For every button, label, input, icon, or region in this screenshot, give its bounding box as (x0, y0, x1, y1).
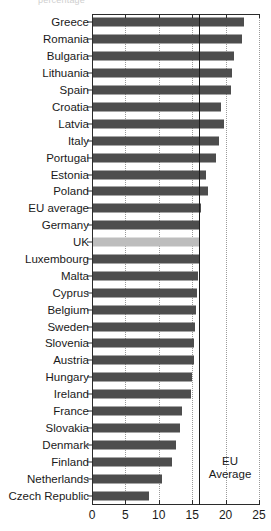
y-tick (87, 394, 92, 395)
y-axis-label-spain: Spain (60, 84, 89, 96)
x-tick-top-20 (226, 14, 227, 18)
y-tick (87, 106, 92, 107)
bar-bulgaria (93, 52, 234, 61)
bar-row: Portugal (0, 149, 271, 166)
y-axis-label-croatia: Croatia (52, 101, 89, 113)
y-axis-label-austria: Austria (53, 354, 89, 366)
bar-row: Ireland (0, 386, 271, 403)
bar-netherlands (93, 474, 162, 483)
y-tick (87, 377, 92, 378)
bar-malta (93, 271, 198, 280)
x-tick-top-25 (259, 14, 260, 18)
x-axis-label-10: 10 (152, 508, 165, 522)
bar-row: Lithuania (0, 65, 271, 82)
bar-row: Estonia (0, 166, 271, 183)
y-axis-label-bulgaria: Bulgaria (47, 50, 89, 62)
bar-spain (93, 86, 231, 95)
y-tick (87, 90, 92, 91)
y-axis-label-denmark: Denmark (42, 439, 89, 451)
bar-italy (93, 136, 219, 145)
cropped-title-remnant: percentage (0, 0, 271, 9)
bar-row: Czech Republic (0, 487, 271, 504)
bar-row: Croatia (0, 98, 271, 115)
bar-row: Austria (0, 352, 271, 369)
y-tick (87, 411, 92, 412)
bar-row: Malta (0, 267, 271, 284)
bar-eu-average (93, 204, 201, 213)
y-axis-label-lithuania: Lithuania (42, 67, 89, 79)
bar-germany (93, 221, 200, 230)
x-tick-top-10 (159, 14, 160, 18)
y-axis-label-greece: Greece (51, 16, 89, 28)
y-tick (87, 157, 92, 158)
bar-row: Latvia (0, 115, 271, 132)
y-tick (87, 22, 92, 23)
y-tick (87, 478, 92, 479)
y-tick (87, 208, 92, 209)
y-axis-label-romania: Romania (43, 33, 89, 45)
x-axis-label-5: 5 (122, 508, 129, 522)
y-tick (87, 140, 92, 141)
bar-slovakia (93, 423, 180, 432)
bar-row: Greece (0, 14, 271, 31)
bar-row: Slovenia (0, 335, 271, 352)
y-tick (87, 258, 92, 259)
bar-finland (93, 457, 172, 466)
y-tick (87, 292, 92, 293)
bar-row: Sweden (0, 318, 271, 335)
x-tick-bottom-25 (259, 500, 260, 505)
bar-row: EU average (0, 200, 271, 217)
eu-average-annotation: EU Average (202, 455, 258, 481)
bar-estonia (93, 170, 206, 179)
bar-row: Bulgaria (0, 48, 271, 65)
bar-romania (93, 35, 242, 44)
bar-cyprus (93, 288, 197, 297)
y-axis-label-portugal: Portugal (46, 152, 89, 164)
x-tick-top-5 (125, 14, 126, 18)
eu-average-line (199, 14, 200, 505)
y-axis-label-poland: Poland (53, 185, 89, 197)
x-axis-label-25: 25 (252, 508, 265, 522)
y-axis-label-germany: Germany (42, 219, 89, 231)
bar-chart: percentage GreeceRomaniaBulgariaLithuani… (0, 0, 271, 531)
y-tick (87, 326, 92, 327)
x-tick-bottom-5 (125, 500, 126, 505)
y-axis-label-malta: Malta (61, 270, 89, 282)
bar-slovenia (93, 339, 194, 348)
bar-lithuania (93, 69, 232, 78)
bar-belgium (93, 305, 196, 314)
x-tick-bottom-10 (159, 500, 160, 505)
bar-uk (93, 238, 199, 247)
bar-row: Cyprus (0, 284, 271, 301)
y-axis-label-luxembourg: Luxembourg (25, 253, 89, 265)
bar-greece (93, 18, 244, 27)
y-tick (87, 191, 92, 192)
y-tick (87, 309, 92, 310)
bar-row: UK (0, 234, 271, 251)
y-axis-label-france: France (53, 405, 89, 417)
bar-latvia (93, 119, 224, 128)
bar-row: Slovakia (0, 420, 271, 437)
x-tick-bottom-20 (226, 500, 227, 505)
bar-france (93, 407, 182, 416)
y-axis-label-estonia: Estonia (51, 169, 89, 181)
bar-ireland (93, 390, 191, 399)
y-tick (87, 343, 92, 344)
bar-austria (93, 356, 194, 365)
bar-croatia (93, 102, 221, 111)
y-tick (87, 73, 92, 74)
cropped-title-text: percentage (38, 0, 85, 5)
y-axis-label-hungary: Hungary (46, 371, 89, 383)
y-tick (87, 495, 92, 496)
y-tick (87, 39, 92, 40)
bar-czech-republic (93, 491, 149, 500)
y-axis-label-cyprus: Cyprus (53, 287, 89, 299)
y-tick (87, 275, 92, 276)
y-tick (87, 461, 92, 462)
bar-row: Germany (0, 217, 271, 234)
y-tick (87, 174, 92, 175)
y-axis-label-italy: Italy (68, 135, 89, 147)
bar-sweden (93, 322, 195, 331)
y-tick (87, 123, 92, 124)
y-axis-label-ireland: Ireland (54, 388, 89, 400)
